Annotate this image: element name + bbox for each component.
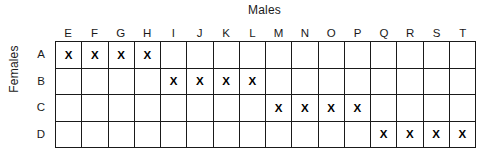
matrix-cell-a-f[interactable]: X bbox=[82, 42, 108, 69]
matrix-row: XXXX bbox=[56, 42, 476, 69]
x-axis-title: Males bbox=[0, 3, 491, 17]
matrix-cell-d-j[interactable] bbox=[187, 121, 213, 148]
matrix-cell-c-r[interactable] bbox=[397, 95, 423, 122]
column-header-o: O bbox=[318, 26, 344, 41]
matrix-cell-d-i[interactable] bbox=[161, 121, 187, 148]
matrix-cell-d-q[interactable]: X bbox=[371, 121, 397, 148]
matrix-cell-d-f[interactable] bbox=[82, 121, 108, 148]
row-header-d: D bbox=[30, 121, 52, 148]
pairing-mark: X bbox=[249, 75, 257, 87]
matrix-cell-c-h[interactable] bbox=[134, 95, 160, 122]
matrix-cell-b-r[interactable] bbox=[397, 68, 423, 95]
matrix-cell-c-t[interactable] bbox=[449, 95, 475, 122]
matrix-cell-b-j[interactable]: X bbox=[187, 68, 213, 95]
pairing-matrix-table: XXXXXXXXXXXXXXXX bbox=[55, 41, 476, 148]
matrix-cell-c-i[interactable] bbox=[161, 95, 187, 122]
matrix-cell-a-s[interactable] bbox=[423, 42, 449, 69]
matrix-cell-d-l[interactable] bbox=[239, 121, 265, 148]
column-header-r: R bbox=[397, 26, 423, 41]
matrix-cell-b-q[interactable] bbox=[371, 68, 397, 95]
matrix-cell-b-k[interactable]: X bbox=[213, 68, 239, 95]
matrix-row: XXXX bbox=[56, 95, 476, 122]
matrix-cell-c-o[interactable]: X bbox=[318, 95, 344, 122]
matrix-cell-d-m[interactable] bbox=[266, 121, 292, 148]
matrix-cell-b-h[interactable] bbox=[134, 68, 160, 95]
matrix-cell-c-n[interactable]: X bbox=[292, 95, 318, 122]
matrix-figure: Males Females EFGHIJKLMNOPQRST ABCD XXXX… bbox=[0, 0, 491, 160]
matrix-cell-c-e[interactable] bbox=[56, 95, 82, 122]
matrix-cell-a-j[interactable] bbox=[187, 42, 213, 69]
pairing-mark: X bbox=[432, 128, 440, 140]
matrix-cell-a-n[interactable] bbox=[292, 42, 318, 69]
matrix-cell-c-f[interactable] bbox=[82, 95, 108, 122]
pairing-mark: X bbox=[222, 75, 230, 87]
pairing-mark: X bbox=[275, 102, 283, 114]
matrix-cell-a-g[interactable]: X bbox=[108, 42, 134, 69]
matrix-cell-c-p[interactable]: X bbox=[344, 95, 370, 122]
matrix-cell-c-s[interactable] bbox=[423, 95, 449, 122]
matrix-cell-c-j[interactable] bbox=[187, 95, 213, 122]
matrix-body: XXXXXXXXXXXXXXXX bbox=[56, 42, 476, 148]
row-header-b: B bbox=[30, 68, 52, 95]
column-header-k: K bbox=[213, 26, 239, 41]
matrix-cell-c-q[interactable] bbox=[371, 95, 397, 122]
column-header-s: S bbox=[423, 26, 449, 41]
column-header-j: J bbox=[187, 26, 213, 41]
matrix-cell-b-i[interactable]: X bbox=[161, 68, 187, 95]
column-header-g: G bbox=[108, 26, 134, 41]
matrix-cell-c-k[interactable] bbox=[213, 95, 239, 122]
matrix-cell-a-p[interactable] bbox=[344, 42, 370, 69]
matrix-cell-a-o[interactable] bbox=[318, 42, 344, 69]
column-header-t: T bbox=[450, 26, 476, 41]
matrix-cell-a-k[interactable] bbox=[213, 42, 239, 69]
matrix-cell-a-r[interactable] bbox=[397, 42, 423, 69]
matrix-cell-b-p[interactable] bbox=[344, 68, 370, 95]
pairing-mark: X bbox=[91, 49, 99, 61]
pairing-mark: X bbox=[301, 102, 309, 114]
matrix-cell-d-h[interactable] bbox=[134, 121, 160, 148]
row-header-a: A bbox=[30, 41, 52, 68]
pairing-mark: X bbox=[170, 75, 178, 87]
pairing-mark: X bbox=[327, 102, 335, 114]
pairing-mark: X bbox=[406, 128, 414, 140]
matrix-cell-d-g[interactable] bbox=[108, 121, 134, 148]
pairing-mark: X bbox=[117, 49, 125, 61]
matrix-cell-d-k[interactable] bbox=[213, 121, 239, 148]
matrix-cell-b-s[interactable] bbox=[423, 68, 449, 95]
matrix-cell-d-o[interactable] bbox=[318, 121, 344, 148]
matrix-row: XXXX bbox=[56, 68, 476, 95]
matrix-cell-a-m[interactable] bbox=[266, 42, 292, 69]
matrix-cell-b-f[interactable] bbox=[82, 68, 108, 95]
matrix-cell-b-t[interactable] bbox=[449, 68, 475, 95]
matrix-cell-c-g[interactable] bbox=[108, 95, 134, 122]
matrix-cell-d-e[interactable] bbox=[56, 121, 82, 148]
matrix-cell-b-m[interactable] bbox=[266, 68, 292, 95]
matrix-cell-d-n[interactable] bbox=[292, 121, 318, 148]
matrix-cell-d-s[interactable]: X bbox=[423, 121, 449, 148]
pairing-mark: X bbox=[196, 75, 204, 87]
matrix-cell-b-g[interactable] bbox=[108, 68, 134, 95]
pairing-mark: X bbox=[380, 128, 388, 140]
matrix-cell-a-h[interactable]: X bbox=[134, 42, 160, 69]
matrix-cell-a-e[interactable]: X bbox=[56, 42, 82, 69]
matrix-cell-b-o[interactable] bbox=[318, 68, 344, 95]
matrix-cell-b-n[interactable] bbox=[292, 68, 318, 95]
matrix-cell-a-t[interactable] bbox=[449, 42, 475, 69]
matrix-cell-c-l[interactable] bbox=[239, 95, 265, 122]
matrix-cell-c-m[interactable]: X bbox=[266, 95, 292, 122]
matrix-cell-a-i[interactable] bbox=[161, 42, 187, 69]
pairing-mark: X bbox=[144, 49, 152, 61]
matrix-cell-a-l[interactable] bbox=[239, 42, 265, 69]
matrix-cell-d-p[interactable] bbox=[344, 121, 370, 148]
matrix-row: XXXX bbox=[56, 121, 476, 148]
row-header-c: C bbox=[30, 94, 52, 121]
matrix-cell-d-t[interactable]: X bbox=[449, 121, 475, 148]
matrix-cell-b-e[interactable] bbox=[56, 68, 82, 95]
column-header-i: I bbox=[160, 26, 186, 41]
matrix-cell-b-l[interactable]: X bbox=[239, 68, 265, 95]
pairing-mark: X bbox=[65, 49, 73, 61]
matrix-cell-a-q[interactable] bbox=[371, 42, 397, 69]
column-header-p: P bbox=[344, 26, 370, 41]
column-header-m: M bbox=[266, 26, 292, 41]
matrix-cell-d-r[interactable]: X bbox=[397, 121, 423, 148]
